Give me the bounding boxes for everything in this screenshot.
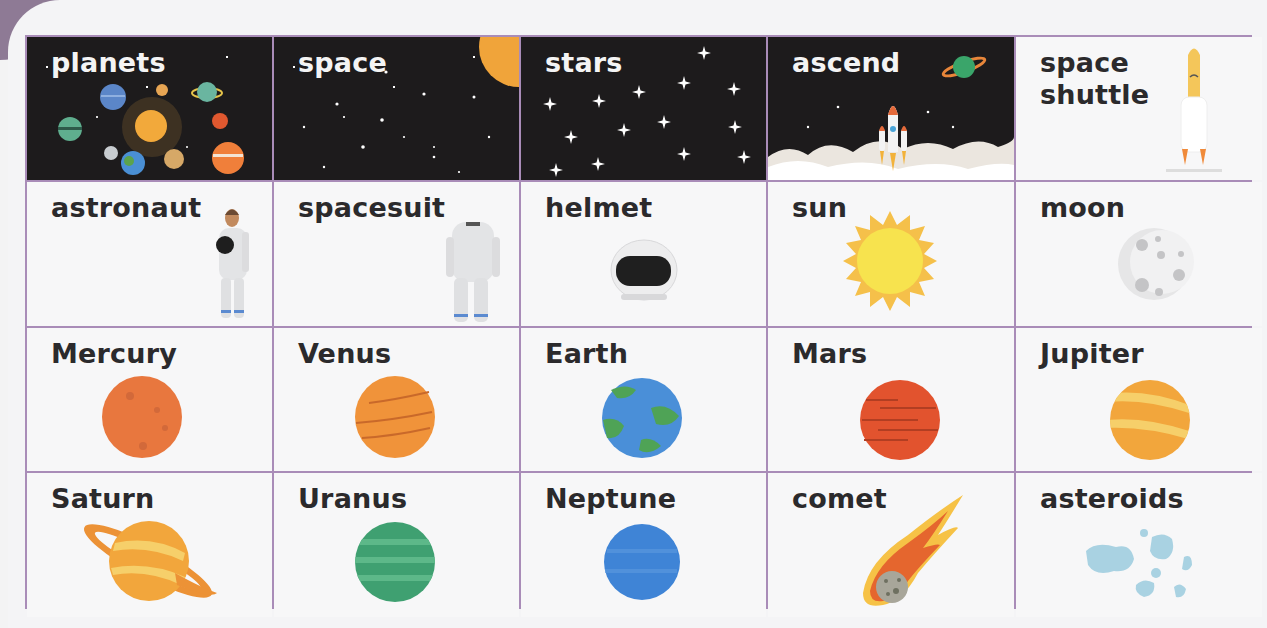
vocabulary-grid: planets space <box>25 35 1252 609</box>
space-shuttle-icon <box>1016 37 1262 180</box>
card-uranus: Uranus <box>274 473 519 617</box>
card-mars: Mars <box>768 328 1014 471</box>
card-moon: moon <box>1016 182 1262 326</box>
card-stars: stars <box>521 37 766 180</box>
card-planets: planets <box>27 37 272 180</box>
moon-icon <box>1016 182 1262 326</box>
card-astronaut: astronaut <box>27 182 272 326</box>
card-asteroids: asteroids <box>1016 473 1262 617</box>
card-spacesuit: spacesuit <box>274 182 519 326</box>
card-ascend: ascend <box>768 37 1014 180</box>
mars-icon <box>768 328 1014 471</box>
solar-system-icon <box>27 37 272 180</box>
spacesuit-icon <box>274 182 519 326</box>
astronaut-icon <box>27 182 272 326</box>
card-helmet: helmet <box>521 182 766 326</box>
card-mercury: Mercury <box>27 328 272 471</box>
card-space-shuttle: space shuttle <box>1016 37 1262 180</box>
rocket-launch-icon <box>768 37 1014 180</box>
card-neptune: Neptune <box>521 473 766 617</box>
sparkle-stars-icon <box>521 37 766 180</box>
card-venus: Venus <box>274 328 519 471</box>
sun-icon <box>768 182 1014 326</box>
helmet-icon <box>521 182 766 326</box>
uranus-icon <box>274 473 519 617</box>
neptune-icon <box>521 473 766 617</box>
card-jupiter: Jupiter <box>1016 328 1262 471</box>
earth-icon <box>521 328 766 471</box>
card-saturn: Saturn <box>27 473 272 617</box>
starfield-icon <box>274 37 519 180</box>
venus-icon <box>274 328 519 471</box>
asteroids-icon <box>1016 473 1262 617</box>
jupiter-icon <box>1016 328 1262 471</box>
mercury-icon <box>27 328 272 471</box>
card-comet: comet <box>768 473 1014 617</box>
card-sun: sun <box>768 182 1014 326</box>
card-earth: Earth <box>521 328 766 471</box>
saturn-icon <box>27 473 272 617</box>
comet-icon <box>768 473 1014 617</box>
card-space: space <box>274 37 519 180</box>
